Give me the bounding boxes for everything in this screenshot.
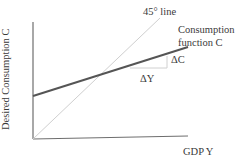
delta-y-label: ΔY xyxy=(140,74,154,85)
x-axis-label: GDP Y xyxy=(183,147,213,158)
consumption-function-line xyxy=(33,47,188,96)
delta-c-label: ΔC xyxy=(171,55,185,66)
line-45-label: 45° line xyxy=(143,7,176,18)
consumption-diagram: 45° line Consumption function C ΔC ΔY GD… xyxy=(0,0,246,165)
consumption-label-line2: function C xyxy=(178,38,223,49)
x-axis xyxy=(33,136,188,139)
y-axis-label: Desired Consumption C xyxy=(1,29,12,131)
consumption-label-line1: Consumption xyxy=(178,25,235,36)
